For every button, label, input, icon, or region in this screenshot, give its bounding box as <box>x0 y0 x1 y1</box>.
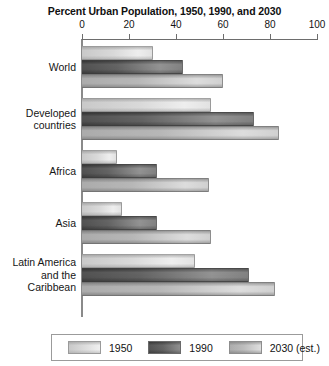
bar-group <box>82 202 317 244</box>
x-tick-80 <box>270 34 271 40</box>
legend-swatch <box>229 341 262 354</box>
legend-label: 2030 (est.) <box>270 342 320 354</box>
bar <box>82 46 153 60</box>
legend-label: 1990 <box>189 342 212 354</box>
category-label: Developed countries <box>0 107 76 132</box>
bar-group <box>82 98 317 140</box>
x-tick-label-20: 20 <box>123 19 134 30</box>
bar <box>82 74 223 88</box>
bar <box>82 164 157 178</box>
bar-group <box>82 150 317 192</box>
category-label: Asia <box>0 217 76 230</box>
category-label: Latin America and the Caribbean <box>0 256 76 294</box>
x-tick-label-40: 40 <box>170 19 181 30</box>
bar <box>82 282 275 296</box>
x-tick-label-80: 80 <box>264 19 275 30</box>
x-tick-label-100: 100 <box>309 19 326 30</box>
category-label: Africa <box>0 165 76 178</box>
bar <box>82 268 249 282</box>
legend-swatch <box>68 341 101 354</box>
bar <box>82 60 183 74</box>
bar-group <box>82 46 317 88</box>
bar <box>82 230 211 244</box>
chart-title: Percent Urban Population, 1950, 1990, an… <box>0 5 329 17</box>
x-tick-0 <box>82 34 83 40</box>
bar <box>82 150 117 164</box>
bar-group <box>82 254 317 296</box>
category-label: World <box>0 61 76 74</box>
legend-item: 2030 (est.) <box>229 341 320 354</box>
x-tick-60 <box>223 34 224 40</box>
x-tick-label-60: 60 <box>217 19 228 30</box>
x-tick-40 <box>176 34 177 40</box>
x-tick-label-0: 0 <box>79 19 85 30</box>
plot-area: 020406080100 <box>82 44 317 318</box>
legend-label: 1950 <box>109 342 132 354</box>
chart-legend: 195019902030 (est.) <box>51 334 303 361</box>
bar <box>82 216 157 230</box>
legend-item: 1990 <box>148 341 212 354</box>
legend-swatch <box>148 341 181 354</box>
x-tick-20 <box>129 34 130 40</box>
bar <box>82 202 122 216</box>
legend-item: 1950 <box>68 341 132 354</box>
bar <box>82 126 279 140</box>
bar <box>82 112 254 126</box>
bar-chart: Percent Urban Population, 1950, 1990, an… <box>0 0 329 366</box>
bar <box>82 178 209 192</box>
x-axis-line <box>82 39 317 40</box>
x-tick-100 <box>317 34 318 40</box>
bar <box>82 98 211 112</box>
bar <box>82 254 195 268</box>
